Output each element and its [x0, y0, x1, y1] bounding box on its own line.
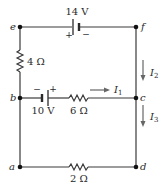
resistor-4ohm-label: 4 Ω — [27, 56, 45, 67]
resistor-6ohm-symbol — [69, 95, 88, 101]
node-f-dot — [134, 25, 139, 30]
circuit-diagram: 14 V + − 4 Ω − + 10 V 6 Ω I1 — [0, 0, 167, 194]
battery-14v-minus: − — [82, 29, 90, 39]
battery-10v-minus: − — [33, 84, 41, 94]
resistor-2ohm-symbol — [69, 164, 88, 170]
battery-14v-label: 14 V — [65, 6, 89, 17]
battery-10v-plus: + — [49, 84, 57, 94]
node-f-label: f — [140, 21, 147, 32]
current-i1-arrow-icon — [90, 88, 110, 93]
battery-14v-symbol — [73, 19, 79, 35]
node-a-label: a — [9, 161, 15, 172]
current-i3-arrow-icon — [141, 105, 146, 127]
current-i2-label: I2 — [149, 67, 158, 80]
middle-branch: − + 10 V 6 Ω I1 — [20, 84, 136, 116]
resistor-4ohm-symbol — [17, 50, 23, 72]
node-c-label: c — [140, 92, 146, 103]
top-branch: 14 V + − — [20, 6, 136, 40]
node-b-label: b — [10, 92, 16, 103]
node-a-dot — [18, 165, 23, 170]
battery-14v-plus: + — [65, 30, 73, 40]
node-e-label: e — [10, 21, 16, 32]
resistor-6ohm-label: 6 Ω — [70, 105, 88, 116]
battery-10v-label: 10 V — [31, 105, 55, 116]
node-d-label: d — [140, 161, 146, 172]
bottom-branch: 2 Ω — [20, 164, 136, 184]
node-c-dot — [134, 96, 139, 101]
current-i2-arrow-icon — [141, 60, 146, 81]
battery-10v-symbol — [42, 90, 48, 106]
node-b-dot — [18, 96, 23, 101]
node-d-dot — [134, 165, 139, 170]
resistor-2ohm-label: 2 Ω — [70, 173, 88, 184]
node-e-dot — [18, 25, 23, 30]
current-i3-label: I3 — [149, 111, 158, 124]
current-i1-label: I1 — [113, 84, 122, 97]
